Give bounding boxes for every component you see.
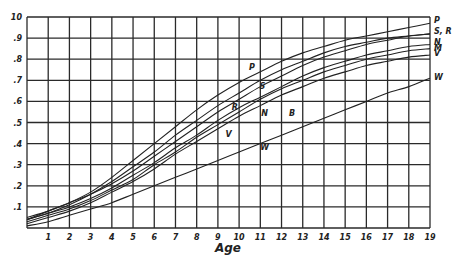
x-tick-label: 6 xyxy=(151,233,157,242)
end-label: V xyxy=(434,49,441,58)
end-label: S, R xyxy=(434,27,452,36)
growth-curve-chart: .1.2.3.4.5.6.7.8.910 1234567891011121314… xyxy=(0,0,455,263)
x-tick-label: 13 xyxy=(297,233,309,242)
x-tick-label: 2 xyxy=(67,233,73,242)
y-axis-ticks: .1.2.3.4.5.6.7.8.910 xyxy=(11,13,23,212)
x-tick-label: 7 xyxy=(173,233,179,242)
inline-label-n: N xyxy=(261,109,268,118)
curve-r xyxy=(27,34,430,218)
y-tick-label: .4 xyxy=(13,140,22,149)
x-tick-label: 15 xyxy=(340,233,352,242)
y-tick-label: .3 xyxy=(13,161,22,170)
x-tick-label: 17 xyxy=(382,233,394,242)
y-tick-label: .6 xyxy=(13,97,22,106)
curve-end-labels: PS, RNMVW xyxy=(434,16,452,82)
end-label: W xyxy=(434,73,444,82)
x-tick-label: 3 xyxy=(88,233,94,242)
inline-label-v: V xyxy=(225,130,232,139)
x-tick-label: 19 xyxy=(424,233,436,242)
inline-label-w: W xyxy=(260,143,270,152)
x-tick-label: 16 xyxy=(361,233,373,242)
x-axis-title: Age xyxy=(214,241,241,255)
inline-label-s: S xyxy=(260,82,266,91)
y-tick-label: 10 xyxy=(11,13,23,22)
y-tick-label: .7 xyxy=(13,76,22,85)
inline-label-r: R xyxy=(232,103,238,112)
x-tick-label: 11 xyxy=(255,233,266,242)
end-label: P xyxy=(434,16,440,25)
chart-curves xyxy=(27,23,430,226)
x-tick-label: 18 xyxy=(403,233,415,242)
y-tick-label: .9 xyxy=(13,34,22,43)
y-tick-label: .1 xyxy=(13,203,22,212)
x-tick-label: 4 xyxy=(108,233,115,242)
y-tick-label: .5 xyxy=(13,119,22,128)
y-tick-label: .8 xyxy=(13,55,22,64)
curve-s xyxy=(27,34,430,220)
x-tick-label: 8 xyxy=(194,233,200,242)
x-tick-label: 12 xyxy=(276,233,288,242)
x-tick-label: 1 xyxy=(45,233,51,242)
curve-p xyxy=(27,23,430,219)
inline-label-p: P xyxy=(249,63,255,72)
x-tick-label: 14 xyxy=(318,233,330,242)
inline-label-b: B xyxy=(289,109,295,118)
x-tick-label: 5 xyxy=(130,233,136,242)
y-tick-label: .2 xyxy=(13,182,22,191)
